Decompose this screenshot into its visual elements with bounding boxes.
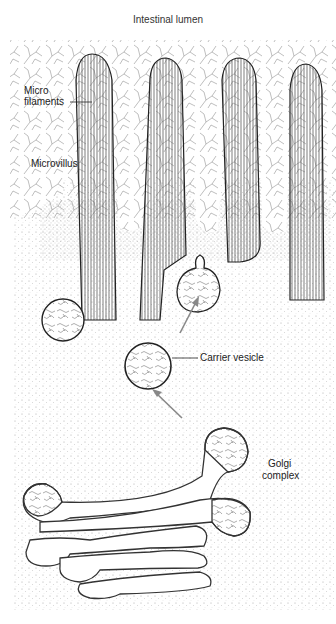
golgi-label-line1: Golgi (268, 458, 291, 469)
microvillus-1 (76, 54, 116, 320)
microvillus-label: Microvillus (31, 158, 78, 169)
golgi-label-line2: complex (262, 470, 299, 481)
figure: Intestinal lumen Micro filaments Microvi… (0, 0, 336, 624)
micro-filaments-label-line2: filaments (24, 96, 64, 107)
micro-filaments-label-line1: Micro (24, 85, 48, 96)
carrier-vesicle-label: Carrier vesicle (200, 352, 264, 363)
illustration (0, 0, 336, 624)
microvillus-3 (222, 58, 260, 262)
microvillus-4 (290, 64, 324, 300)
intestinal-lumen-label: Intestinal lumen (0, 14, 336, 25)
